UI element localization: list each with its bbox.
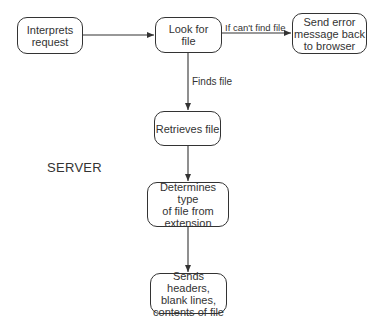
node-determines-type: Determines type of file from extension (147, 182, 229, 227)
edge-label-finds-file: Finds file (192, 76, 232, 87)
node-send-error: Send error message back to browser (292, 13, 367, 54)
node-interprets-request: Interprets request (17, 17, 83, 54)
edge-label-cant-find: If can't find file (225, 22, 285, 33)
node-retrieves-file: Retrieves file (154, 111, 221, 146)
node-sends-headers: Sends headers, blank lines, contents of … (150, 273, 227, 314)
node-look-for-file: Look for file (155, 17, 222, 53)
section-label-server: SERVER (47, 160, 102, 175)
